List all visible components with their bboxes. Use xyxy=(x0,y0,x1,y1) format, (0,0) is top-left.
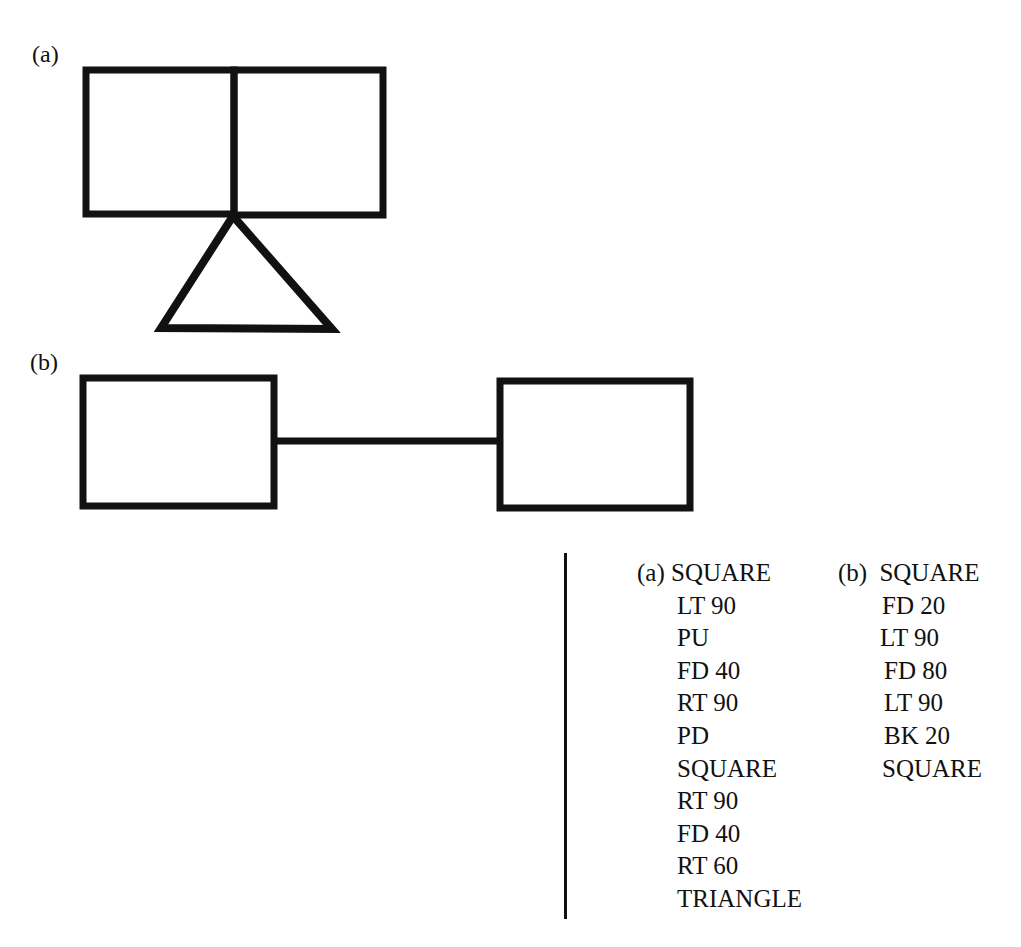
program-a-line: FD 40 xyxy=(637,818,802,851)
figure-a-right-square xyxy=(234,70,383,215)
program-b-line: LT 90 xyxy=(838,687,982,720)
program-a-line: LT 90 xyxy=(637,590,802,623)
program-a-line: FD 40 xyxy=(637,655,802,688)
program-b-line: SQUARE xyxy=(879,559,979,586)
program-a-head: (a) SQUARE xyxy=(637,557,802,590)
program-b-head: (b) SQUARE xyxy=(838,557,982,590)
program-b-line: LT 90 xyxy=(838,622,982,655)
program-a-line: RT 90 xyxy=(637,687,802,720)
figure-b-left-square xyxy=(83,378,274,506)
vertical-divider xyxy=(564,553,567,919)
program-b: (b) SQUARE FD 20 LT 90 FD 80 LT 90 BK 20… xyxy=(838,557,982,785)
figure-a-drawing xyxy=(86,70,383,329)
figure-a-left-square xyxy=(86,70,234,214)
program-a-line: PD xyxy=(637,720,802,753)
figure-b-drawing xyxy=(83,378,690,508)
program-a: (a) SQUARE LT 90 PU FD 40 RT 90 PD SQUAR… xyxy=(637,557,802,916)
program-b-label: (b) xyxy=(838,559,867,586)
program-b-line: BK 20 xyxy=(838,720,982,753)
program-a-line: SQUARE xyxy=(671,559,771,586)
program-a-line: TRIANGLE xyxy=(637,883,802,916)
program-a-line: PU xyxy=(637,622,802,655)
figure-a-triangle xyxy=(161,216,332,329)
program-a-line: RT 60 xyxy=(637,850,802,883)
figure-b-right-square xyxy=(500,381,690,508)
program-a-line: SQUARE xyxy=(637,753,802,786)
turtle-drawings xyxy=(0,0,1021,947)
program-a-line: RT 90 xyxy=(637,785,802,818)
program-a-label: (a) xyxy=(637,559,665,586)
program-b-line: SQUARE xyxy=(838,753,982,786)
program-b-line: FD 20 xyxy=(838,590,982,623)
program-b-line: FD 80 xyxy=(838,655,982,688)
